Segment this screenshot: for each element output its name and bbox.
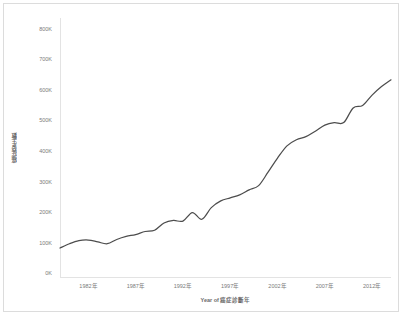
y-tick-label: 400K — [39, 148, 52, 154]
x-tick-label: 2002年 — [268, 282, 286, 290]
y-tick-label: 500K — [39, 117, 52, 123]
y-tick-label: 0K — [45, 270, 52, 276]
y-axis-tick-labels: 800K 700K 600K 500K 400K 300K 200K 100K … — [4, 18, 56, 278]
y-tick-label: 300K — [39, 179, 52, 185]
line-series-path — [60, 80, 391, 248]
y-tick-label: 800K — [39, 26, 52, 32]
x-tick-label: 1992年 — [174, 282, 192, 290]
series-canvas — [60, 18, 391, 278]
x-tick-label: 2007年 — [316, 282, 334, 290]
chart-frame: 癌症發生數 800K 700K 600K 500K 400K 300K 200K… — [3, 3, 399, 312]
plot-area — [60, 18, 391, 278]
line-series-svg — [60, 18, 391, 278]
x-axis-tick-labels: 1982年 1987年 1992年 1997年 2002年 2007年 2012… — [60, 280, 391, 294]
x-tick-label: 1982年 — [79, 282, 97, 290]
y-tick-label: 700K — [39, 56, 52, 62]
y-tick-label: 600K — [39, 87, 52, 93]
x-axis-title-label: Year of 癌症診斷年 — [201, 297, 251, 303]
x-axis-title: Year of 癌症診斷年 — [60, 296, 391, 304]
y-tick-label: 200K — [39, 209, 52, 215]
y-tick-label: 100K — [39, 240, 52, 246]
x-tick-label: 2012年 — [363, 282, 381, 290]
x-tick-label: 1987年 — [127, 282, 145, 290]
x-tick-label: 1997年 — [221, 282, 239, 290]
